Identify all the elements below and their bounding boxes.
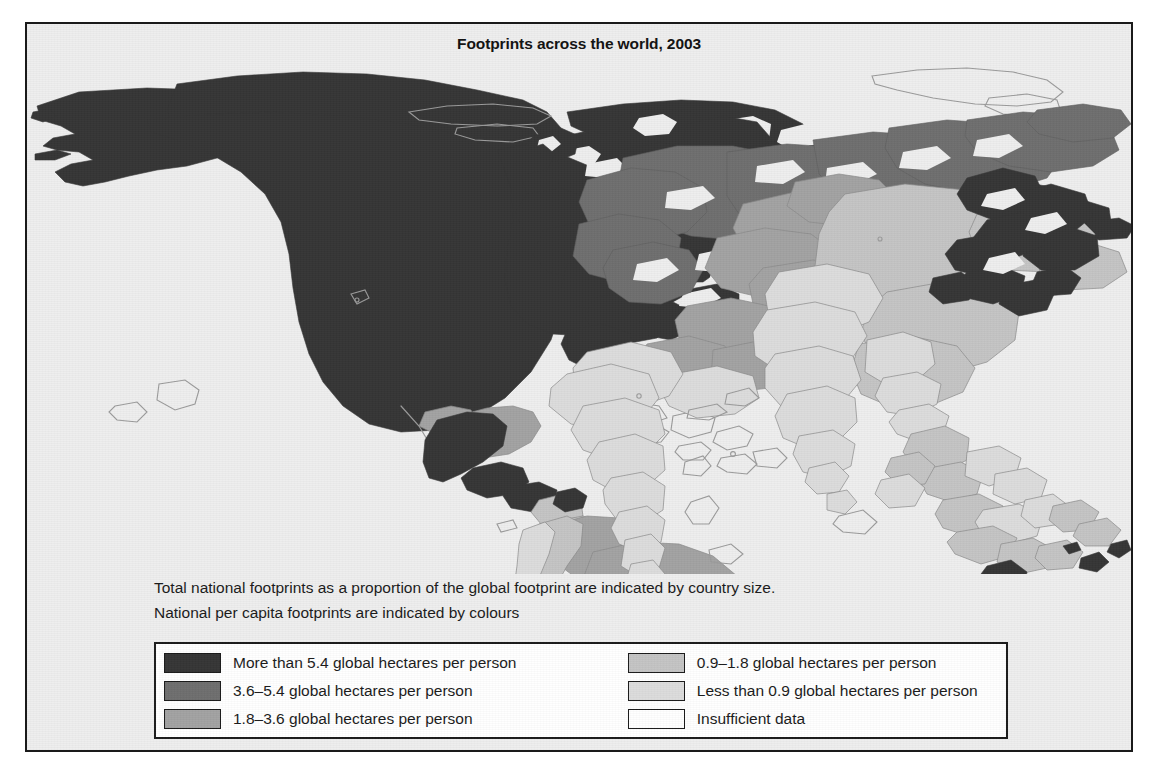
legend-item-1-8-to-3-6: 1.8–3.6 global hectares per person [164, 705, 620, 733]
world-cartogram-map: .c5 { fill:#353535; stroke:#353535; stro… [27, 54, 1131, 574]
legend-label-insufficient-data: Insufficient data [697, 710, 805, 728]
legend-item-less-than-0-9: Less than 0.9 global hectares per person [628, 677, 1006, 705]
legend-label-more-than-5-4: More than 5.4 global hectares per person [233, 654, 516, 672]
legend-item-0-9-to-1-8: 0.9–1.8 global hectares per person [628, 649, 1006, 677]
page-title: Footprints across the world, 2003 [27, 35, 1131, 53]
legend-label-less-than-0-9: Less than 0.9 global hectares per person [697, 682, 978, 700]
legend-swatch-3-6-to-5-4 [164, 681, 221, 701]
legend-swatch-less-than-0-9 [628, 681, 685, 701]
legend-item-insufficient-data: Insufficient data [628, 705, 1006, 733]
legend-column-left: More than 5.4 global hectares per person… [156, 644, 620, 737]
caption-line-2: National per capita footprints are indic… [154, 600, 1054, 625]
figure-panel: Footprints across the world, 2003 .c5 { … [25, 22, 1133, 752]
legend-column-right: 0.9–1.8 global hectares per person Less … [620, 644, 1006, 737]
legend-swatch-more-than-5-4 [164, 653, 221, 673]
legend-swatch-0-9-to-1-8 [628, 653, 685, 673]
legend-label-0-9-to-1-8: 0.9–1.8 global hectares per person [697, 654, 937, 672]
legend-item-more-than-5-4: More than 5.4 global hectares per person [164, 649, 620, 677]
caption-block: Total national footprints as a proportio… [154, 575, 1054, 625]
legend-label-3-6-to-5-4: 3.6–5.4 global hectares per person [233, 682, 473, 700]
map-svg: .c5 { fill:#353535; stroke:#353535; stro… [27, 54, 1131, 574]
caption-line-1: Total national footprints as a proportio… [154, 575, 1054, 600]
legend-item-3-6-to-5-4: 3.6–5.4 global hectares per person [164, 677, 620, 705]
legend-swatch-1-8-to-3-6 [164, 709, 221, 729]
legend-label-1-8-to-3-6: 1.8–3.6 global hectares per person [233, 710, 473, 728]
legend: More than 5.4 global hectares per person… [154, 642, 1008, 739]
legend-swatch-insufficient-data [628, 709, 685, 729]
